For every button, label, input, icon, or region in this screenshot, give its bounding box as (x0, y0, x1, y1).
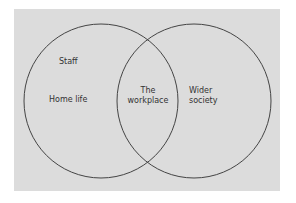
label-the: The (122, 86, 174, 96)
label-wider: Wider (189, 86, 217, 96)
label-wider-society: Wider society (189, 86, 217, 106)
label-staff: Staff (59, 57, 78, 67)
label-workplace: workplace (122, 96, 174, 106)
label-society: society (189, 96, 217, 106)
label-home-life: Home life (49, 95, 87, 105)
label-the-workplace: The workplace (122, 86, 174, 106)
